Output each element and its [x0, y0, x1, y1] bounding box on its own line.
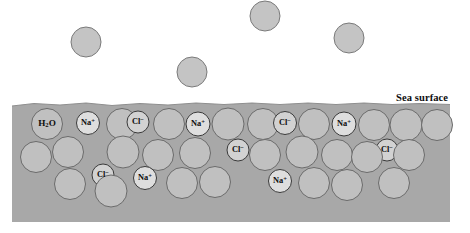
- water-molecule: [390, 109, 422, 141]
- water-molecule: [359, 110, 390, 141]
- water-molecule: [53, 137, 84, 168]
- seawater-diagram: [0, 0, 470, 233]
- water-molecule: [286, 136, 318, 168]
- water-molecule: [322, 140, 353, 171]
- sodium-ion: [332, 112, 356, 136]
- evaporated-water-1: [71, 27, 101, 57]
- water-molecule: [332, 170, 363, 201]
- evaporated-water-4: [177, 57, 207, 87]
- chloride-ion: [127, 111, 149, 133]
- water-molecule: [422, 110, 453, 141]
- water-molecule: [107, 136, 139, 168]
- water-molecule: [21, 142, 52, 173]
- water-molecule: [299, 168, 330, 199]
- water-molecule: [55, 169, 86, 200]
- sodium-ion: [186, 112, 210, 136]
- water-molecule: [212, 108, 244, 140]
- water-molecule: [32, 109, 63, 140]
- water-molecule: [167, 168, 198, 199]
- water-molecule: [200, 167, 231, 198]
- water-molecule: [299, 109, 330, 140]
- evaporated-molecules-group: [71, 1, 364, 87]
- water-molecule: [250, 140, 281, 171]
- sea-surface-label: Sea surface: [396, 92, 448, 103]
- chloride-ion: [274, 112, 297, 135]
- figure-canvas: Sea surface H2ONa+Cl−Na+Cl−Na+Cl−Cl−Cl−N…: [0, 0, 470, 233]
- sodium-ion: [77, 112, 100, 135]
- chloride-ion: [227, 139, 249, 161]
- water-molecule: [95, 175, 127, 207]
- evaporated-water-3: [334, 23, 364, 53]
- water-molecule: [154, 109, 185, 140]
- sodium-ion: [269, 170, 292, 193]
- water-molecule: [379, 168, 410, 199]
- water-molecule: [394, 140, 425, 171]
- sodium-ion: [134, 167, 157, 190]
- water-molecule: [180, 138, 211, 169]
- water-molecule: [143, 140, 174, 171]
- water-molecule: [352, 142, 383, 173]
- evaporated-water-2: [250, 1, 280, 31]
